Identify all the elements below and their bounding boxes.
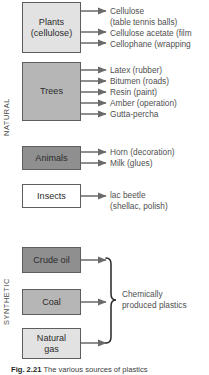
output-plants-1: Cellulose xyxy=(110,6,144,17)
group-label-synthetic: SYNTHETIC xyxy=(2,252,11,352)
output-synthetic-2: produced plastics xyxy=(122,300,187,311)
output-trees-3: Resin (paint) xyxy=(110,87,157,98)
node-animals[interactable]: Animals xyxy=(22,146,81,170)
node-coal-line1: Coal xyxy=(42,297,61,307)
node-natural-gas-line1: Natural xyxy=(37,333,66,343)
output-trees-2: Bitumen (roads) xyxy=(110,76,169,87)
node-natural-gas-line2: gas xyxy=(37,344,66,354)
synthetic-brace xyxy=(106,258,116,343)
group-label-natural: NATURAL xyxy=(2,58,11,176)
node-trees[interactable]: Trees xyxy=(22,62,81,121)
node-trees-line1: Trees xyxy=(40,86,63,96)
figure-caption-label: Fig. 2.21 xyxy=(11,365,41,374)
node-plants[interactable]: Plants (cellulose) xyxy=(22,2,81,53)
output-trees-4: Amber (operation) xyxy=(110,98,177,109)
node-insects-line1: Insects xyxy=(37,191,66,201)
output-animals-2: Milk (glues) xyxy=(110,158,152,169)
node-plants-line1: Plants xyxy=(31,17,72,27)
node-insects[interactable]: Insects xyxy=(22,184,81,208)
output-plants-4: Cellophane (wrapping xyxy=(110,39,191,50)
node-crude-oil-line1: Crude oil xyxy=(33,255,69,265)
node-plants-line2: (cellulose) xyxy=(31,28,72,38)
output-trees-5: Gutta-percha xyxy=(110,109,158,120)
output-plants-3: Cellulose acetate (film xyxy=(110,28,192,39)
node-natural-gas[interactable]: Natural gas xyxy=(22,328,81,359)
node-animals-line1: Animals xyxy=(35,153,67,163)
output-plants-2: (table tennis balls) xyxy=(110,17,177,28)
output-insects-1: lac beetle xyxy=(110,190,146,201)
node-coal[interactable]: Coal xyxy=(22,289,81,315)
output-trees-1: Latex (rubber) xyxy=(110,65,162,76)
output-synthetic-1: Chemically xyxy=(122,289,163,300)
plastics-sources-diagram: NATURAL SYNTHETIC Plants (cellulose) Tre… xyxy=(0,0,209,375)
output-animals-1: Horn (decoration) xyxy=(110,147,175,158)
figure-caption-text: The various sources of plastics xyxy=(43,365,147,374)
node-crude-oil[interactable]: Crude oil xyxy=(22,247,81,273)
figure-caption: Fig. 2.21 The various sources of plastic… xyxy=(11,365,209,374)
output-insects-2: (shellac, polish) xyxy=(110,201,168,212)
